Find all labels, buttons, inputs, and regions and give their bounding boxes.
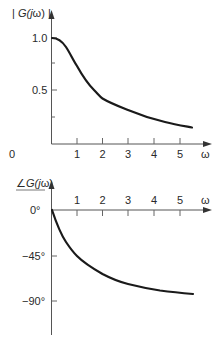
xtick-label-2: 2 xyxy=(100,194,106,206)
xtick-label-3: 3 xyxy=(125,194,131,206)
x-axis-label-omega: ω xyxy=(201,194,210,206)
x-axis-arrow-icon xyxy=(203,207,212,213)
ytick-label-1.0: 1.0 xyxy=(32,32,47,44)
magnitude-curve xyxy=(52,38,192,128)
bode-plot-figure: | G(jω) | 1.0 0.5 0 1 2 3 4 5 ω ∠G(jω) xyxy=(0,0,221,347)
ytick-label-minus-90: −90° xyxy=(22,295,45,307)
xtick-label-5: 5 xyxy=(177,148,183,160)
x-axis-label-omega: ω xyxy=(201,148,210,160)
phase-plot: ∠G(jω) 0° −45° −90° 1 2 3 4 5 ω xyxy=(16,177,212,335)
phase-curve xyxy=(52,210,193,294)
ytick-label-minus-45: −45° xyxy=(22,250,45,262)
x-axis-arrow-icon xyxy=(203,141,212,147)
xtick-label-3: 3 xyxy=(125,148,131,160)
phase-ylabel: ∠G(jω) xyxy=(16,177,53,189)
xtick-label-5: 5 xyxy=(177,194,183,206)
xtick-label-1: 1 xyxy=(74,148,80,160)
origin-label: 0 xyxy=(9,148,15,160)
xtick-label-2: 2 xyxy=(100,148,106,160)
ytick-label-0.5: 0.5 xyxy=(32,84,47,96)
magnitude-ylabel: | G(jω) | xyxy=(12,7,51,19)
xtick-label-1: 1 xyxy=(74,194,80,206)
xtick-label-4: 4 xyxy=(151,148,157,160)
xtick-label-4: 4 xyxy=(151,194,157,206)
magnitude-plot: | G(jω) | 1.0 0.5 0 1 2 3 4 5 ω xyxy=(9,7,212,160)
ytick-label-0: 0° xyxy=(30,204,41,216)
